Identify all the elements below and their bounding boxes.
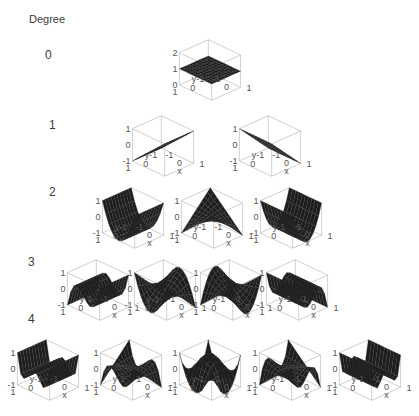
svg-text:1: 1 — [172, 87, 177, 97]
svg-text:-1: -1 — [214, 222, 222, 232]
svg-text:y-1: y-1 — [252, 150, 265, 160]
svg-text:1: 1 — [307, 159, 312, 169]
svg-text:y-1: y-1 — [115, 222, 128, 232]
svg-text:x: x — [179, 310, 184, 320]
svg-text:0: 0 — [193, 284, 198, 294]
svg-text:1: 1 — [332, 387, 337, 397]
svg-text:1: 1 — [10, 387, 15, 397]
surface-plot-degree-4-xy3: 10-110y-1-101x — [245, 330, 335, 410]
svg-text:x: x — [384, 390, 389, 400]
svg-text:1: 1 — [174, 235, 179, 245]
svg-text:1: 1 — [200, 159, 205, 169]
svg-text:1: 1 — [125, 124, 130, 134]
svg-text:-1: -1 — [272, 150, 280, 160]
svg-text:0: 0 — [252, 364, 257, 374]
svg-text:0: 0 — [332, 364, 337, 374]
svg-text:-1: -1 — [292, 374, 300, 384]
svg-text:y-1: y-1 — [147, 294, 160, 304]
surface-plot-degree-2-y2: 10-110y-1-101x — [246, 178, 336, 258]
surface-plot-degree-2-x2: 10-110y-1-101x — [88, 178, 178, 258]
svg-text:1: 1 — [172, 64, 177, 74]
surface-plot-degree-3-y3: 10-110y-1-101x — [252, 250, 342, 330]
svg-text:1: 1 — [252, 348, 257, 358]
svg-text:x: x — [245, 310, 250, 320]
svg-text:0: 0 — [93, 364, 98, 374]
svg-text:x: x — [177, 166, 182, 176]
svg-text:1: 1 — [174, 196, 179, 206]
svg-text:x: x — [224, 390, 229, 400]
surface-plot-degree-1-x: 10-110y-1-101x — [118, 106, 208, 186]
degree-label-1: 1 — [49, 118, 56, 132]
svg-text:y-1: y-1 — [80, 294, 93, 304]
svg-text:-1: -1 — [233, 294, 241, 304]
svg-text:0: 0 — [232, 140, 237, 150]
svg-text:0: 0 — [253, 212, 258, 222]
svg-text:y-1: y-1 — [192, 374, 205, 384]
svg-text:1: 1 — [10, 348, 15, 358]
surface-plot-degree-1-y: 10-110y-1-101x — [225, 106, 315, 186]
svg-text:-1: -1 — [100, 294, 108, 304]
svg-text:y-1: y-1 — [272, 374, 285, 384]
surface — [260, 188, 321, 242]
surface — [17, 340, 78, 388]
svg-text:1: 1 — [193, 307, 198, 317]
svg-text:1: 1 — [259, 307, 264, 317]
svg-text:0: 0 — [10, 364, 15, 374]
svg-text:-1: -1 — [212, 374, 220, 384]
svg-text:x: x — [304, 390, 309, 400]
svg-text:y-1: y-1 — [279, 294, 292, 304]
svg-text:1: 1 — [95, 196, 100, 206]
svg-text:y-1: y-1 — [145, 150, 158, 160]
surface — [100, 340, 161, 388]
surface — [181, 188, 242, 236]
svg-text:1: 1 — [232, 163, 237, 173]
surface-plot-degree-4-x3y: 10-110y-1-101x — [86, 330, 176, 410]
surface-plot-degree-4-x4: 10-110y-1-101x — [3, 330, 93, 410]
svg-text:2: 2 — [172, 48, 177, 58]
svg-text:y-1: y-1 — [352, 374, 365, 384]
degree-label-3: 3 — [28, 255, 35, 269]
svg-text:x: x — [305, 238, 310, 248]
surface — [179, 56, 240, 84]
surface — [259, 340, 320, 388]
surface-plot-degree-2-xy: 10-110y-1-101x — [167, 178, 257, 258]
surface — [102, 188, 163, 241]
svg-text:-1: -1 — [50, 374, 58, 384]
surface — [239, 129, 300, 164]
svg-text:x: x — [147, 238, 152, 248]
svg-text:-1: -1 — [167, 294, 175, 304]
degree-label-2: 2 — [49, 185, 56, 199]
svg-text:1: 1 — [332, 348, 337, 358]
svg-text:1: 1 — [328, 231, 333, 241]
svg-text:-1: -1 — [299, 294, 307, 304]
svg-text:x: x — [112, 310, 117, 320]
svg-text:y-1: y-1 — [30, 374, 43, 384]
surface-plot-degree-4-y4: 10-110y-1-101x — [325, 330, 415, 410]
svg-text:1: 1 — [334, 303, 339, 313]
svg-text:0: 0 — [95, 212, 100, 222]
svg-text:1: 1 — [127, 307, 132, 317]
svg-text:1: 1 — [407, 383, 412, 393]
svg-text:y-1: y-1 — [113, 374, 126, 384]
svg-text:1: 1 — [60, 307, 65, 317]
svg-text:x: x — [284, 166, 289, 176]
svg-text:0: 0 — [125, 140, 130, 150]
svg-text:0: 0 — [259, 284, 264, 294]
svg-text:0: 0 — [174, 212, 179, 222]
svg-text:1: 1 — [193, 268, 198, 278]
surface — [132, 131, 193, 161]
svg-text:0: 0 — [127, 284, 132, 294]
svg-text:x: x — [311, 310, 316, 320]
svg-text:1: 1 — [93, 348, 98, 358]
svg-text:1: 1 — [259, 268, 264, 278]
svg-text:1: 1 — [172, 387, 177, 397]
svg-text:-1: -1 — [133, 374, 141, 384]
svg-text:-1: -1 — [293, 222, 301, 232]
svg-text:-1: -1 — [135, 222, 143, 232]
svg-text:1: 1 — [247, 83, 252, 93]
svg-text:x: x — [145, 390, 150, 400]
svg-text:1: 1 — [125, 163, 130, 173]
svg-text:-1: -1 — [372, 374, 380, 384]
svg-text:1: 1 — [232, 124, 237, 134]
svg-text:1: 1 — [253, 196, 258, 206]
